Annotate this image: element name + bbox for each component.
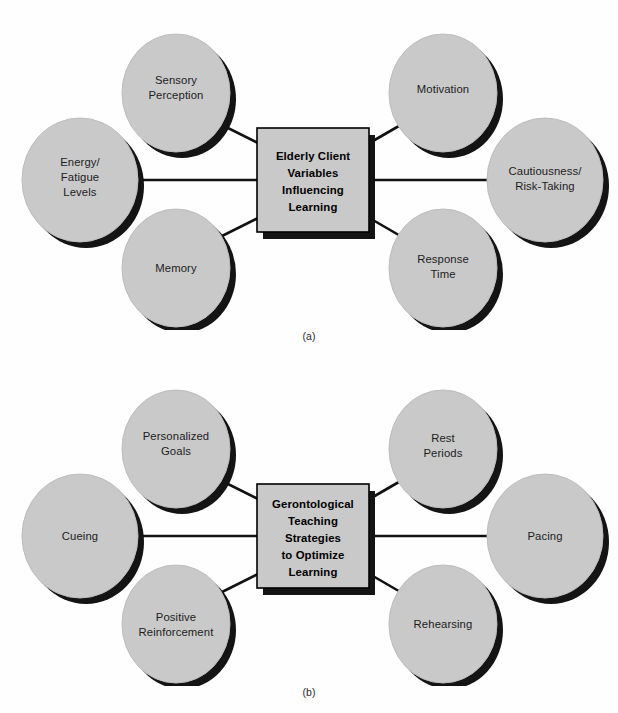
center-box-gerontological-teaching-strategies[interactable]: Gerontological Teaching Strategies to Op… [257, 484, 375, 595]
node-memory[interactable]: Memory [122, 209, 236, 330]
center-box-line: Learning [289, 201, 338, 213]
center-box-line: Strategies [285, 532, 341, 544]
diagram-a-svg: Sensory Perception Energy/ Fatigue Level… [0, 0, 618, 330]
node-motivation[interactable]: Motivation [389, 34, 503, 158]
center-box-line: Learning [289, 566, 338, 578]
node-label-line: Energy/ [60, 156, 100, 168]
center-box-rect [257, 128, 369, 232]
node-label-line: Goals [161, 445, 191, 457]
diagram-b-svg: Personalized Goals Cueing Positive Reinf… [0, 356, 618, 686]
node-rest-periods[interactable]: Rest Periods [389, 390, 503, 514]
node-personalized-goals[interactable]: Personalized Goals [122, 390, 236, 514]
center-box-line: Teaching [288, 515, 338, 527]
node-label-line: Sensory [155, 74, 197, 86]
node-rehearsing[interactable]: Rehearsing [389, 565, 503, 686]
caption-panel-b: (b) [0, 686, 618, 698]
center-box-line: Variables [288, 167, 339, 179]
node-label-line: Pacing [527, 530, 562, 542]
node-label-line: Rehearsing [414, 618, 473, 630]
node-sensory-perception[interactable]: Sensory Perception [122, 34, 236, 158]
center-box-line: to Optimize [281, 549, 344, 561]
center-box-elderly-client-variables[interactable]: Elderly Client Variables Influencing Lea… [257, 128, 375, 239]
node-positive-reinforcement[interactable]: Positive Reinforcement [122, 565, 236, 686]
node-label-line: Perception [148, 89, 203, 101]
node-label-line: Periods [423, 447, 462, 459]
node-label-line: Personalized [143, 430, 210, 442]
node-label-line: Rest [431, 432, 455, 444]
node-pacing[interactable]: Pacing [487, 474, 609, 604]
node-cautiousness-risk-taking[interactable]: Cautiousness/ Risk-Taking [487, 118, 609, 248]
node-energy-fatigue-levels[interactable]: Energy/ Fatigue Levels [22, 118, 144, 248]
center-box-line: Elderly Client [276, 150, 350, 162]
node-label-line: Time [430, 268, 455, 280]
node-label-line: Memory [155, 262, 197, 274]
node-label-line: Cueing [62, 530, 98, 542]
node-label-line: Fatigue [61, 171, 99, 183]
node-label-line: Positive [156, 611, 196, 623]
node-label-line: Risk-Taking [515, 180, 574, 192]
figure-page: Sensory Perception Energy/ Fatigue Level… [0, 0, 618, 713]
node-label-line: Levels [63, 186, 97, 198]
node-label-line: Response [417, 253, 469, 265]
node-label-line: Cautiousness/ [509, 165, 583, 177]
node-response-time[interactable]: Response Time [389, 209, 503, 330]
diagram-panel-a: Sensory Perception Energy/ Fatigue Level… [0, 0, 618, 356]
diagram-panel-b: Personalized Goals Cueing Positive Reinf… [0, 356, 618, 713]
node-label-line: Reinforcement [139, 626, 215, 638]
center-box-line: Influencing [282, 184, 344, 196]
caption-panel-a: (a) [0, 330, 618, 342]
node-circle [122, 565, 230, 683]
node-cueing[interactable]: Cueing [22, 474, 144, 604]
node-label-line: Motivation [417, 83, 470, 95]
center-box-line: Gerontological [272, 498, 354, 510]
